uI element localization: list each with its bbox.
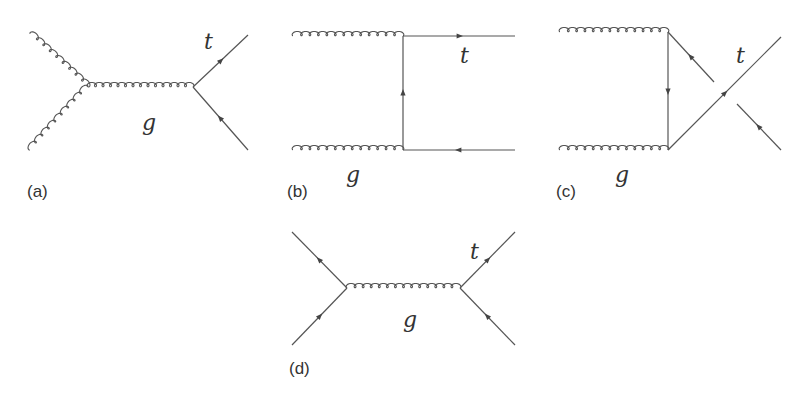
diagram-c-gluon-label: g: [615, 162, 629, 187]
propagator-gluon: [346, 284, 461, 288]
diagram-d-caption: (d): [289, 359, 310, 378]
diagram-a-gluon-label: g: [142, 110, 156, 135]
diagram-b-caption: (b): [287, 182, 308, 201]
diagram-a-caption: (a): [27, 182, 48, 201]
diagram-d-top-label: t: [470, 239, 479, 264]
incoming-gluon-top: [292, 32, 404, 36]
diagram-d-gluon-label: g: [403, 307, 417, 332]
diagram-c: [559, 28, 781, 151]
diagram-b-gluon-label: g: [346, 162, 360, 187]
incoming-gluon-bottom: [559, 146, 669, 150]
incoming-gluon-bottom: [28, 85, 88, 150]
propagator-gluon: [87, 83, 194, 87]
incoming-gluon-top: [30, 32, 90, 87]
incoming-gluon-bottom: [292, 146, 404, 150]
arrow-icon: [455, 147, 461, 152]
diagram-b-top-label: t: [460, 43, 469, 68]
diagram-b: [292, 32, 515, 153]
diagram-c-top-label: t: [736, 43, 745, 68]
incoming-gluon-top: [559, 28, 669, 32]
arrow-icon: [400, 89, 405, 95]
feynman-diagrams-figure: t g (a) t g (b) t g (c) t g (d): [0, 0, 804, 397]
diagram-a-top-label: t: [204, 29, 213, 54]
diagram-c-caption: (c): [556, 182, 576, 201]
arrow-icon: [665, 89, 670, 95]
diagram-a: [28, 32, 248, 150]
arrow-icon: [457, 33, 463, 38]
